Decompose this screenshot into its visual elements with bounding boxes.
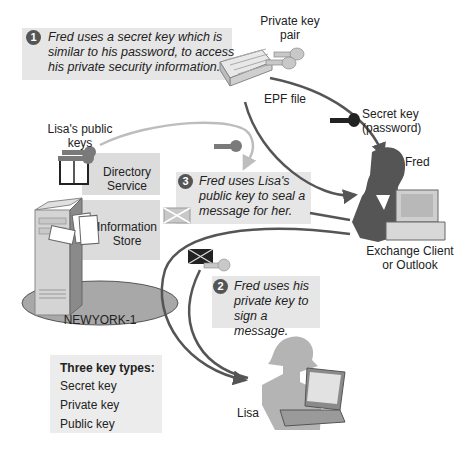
key-types-legend: Three key types: Secret key Private key … [50, 355, 162, 433]
server-name-label: NEWYORK-1 [50, 313, 150, 327]
information-store-label: Information Store [92, 220, 162, 248]
lisas-public-keys-label: Lisa's public keys [40, 122, 120, 150]
legend-secret-key-label: Secret key [60, 379, 117, 393]
legend-private-key-label: Private key [60, 398, 119, 412]
fred-label: Fred [405, 155, 445, 169]
directory-book-icon [58, 146, 96, 184]
epf-loop-arrow [245, 102, 355, 195]
epf-file-label: EPF file [255, 92, 315, 106]
lisa-label: Lisa [228, 406, 268, 420]
sealed-envelope-icon [164, 208, 190, 223]
legend-title: Three key types: [60, 361, 155, 375]
secret-key-icon [330, 113, 360, 127]
secret-key-label: Secret key (password) [362, 107, 432, 135]
private-key-pair-label: Private key pair [250, 14, 330, 42]
signed-message-arrow [189, 270, 248, 378]
legend-public-key-label: Public key [60, 417, 115, 431]
signed-envelope-icon [188, 249, 230, 271]
directory-service-label: Directory Service [92, 165, 162, 193]
seal-line [310, 213, 350, 220]
lisa-public-key-icon [214, 140, 242, 152]
exchange-client-label: Exchange Client or Outlook [360, 244, 460, 272]
epf-file-icon [220, 49, 272, 86]
